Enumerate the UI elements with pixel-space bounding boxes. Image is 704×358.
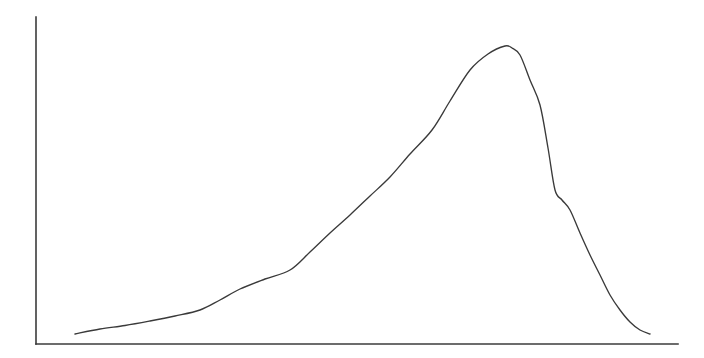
- chart-figure: Line plot of a single smooth unimodal le…: [0, 0, 704, 358]
- plot-background: [0, 0, 704, 358]
- plot-area: [0, 0, 704, 358]
